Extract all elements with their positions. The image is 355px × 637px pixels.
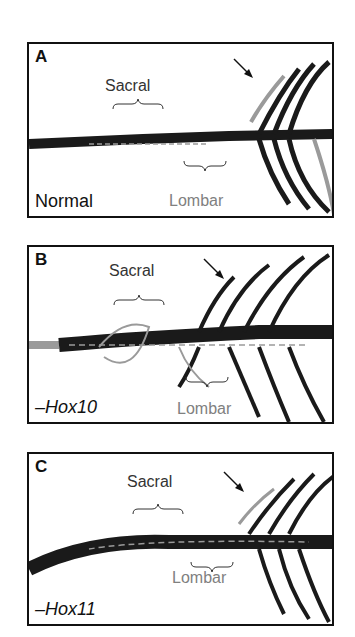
panel-letter: C (35, 457, 47, 477)
panel-c: C Sacral Lombar –Hox11 (27, 452, 334, 626)
panel-letter: A (35, 47, 47, 67)
lumbar-brace (186, 377, 228, 387)
panel-b: B Sacral Lombar –Hox10 (27, 245, 334, 424)
sacral-brace (113, 99, 163, 109)
condition-label: Normal (35, 191, 93, 212)
lumbar-label: Lombar (172, 569, 226, 587)
panel-a: A Sacral Lombar Normal (27, 42, 334, 218)
panel-letter: B (35, 250, 47, 270)
sacral-label: Sacral (109, 262, 154, 280)
condition-label: –Hox11 (35, 599, 96, 620)
lumbar-brace (184, 161, 226, 171)
sacral-brace (114, 295, 164, 305)
sacral-label: Sacral (105, 77, 150, 95)
lumbar-label: Lombar (177, 400, 231, 418)
sacral-brace (133, 504, 183, 514)
condition-label: –Hox10 (35, 397, 97, 418)
lumbar-label: Lombar (169, 192, 223, 210)
sacral-label: Sacral (127, 473, 172, 491)
